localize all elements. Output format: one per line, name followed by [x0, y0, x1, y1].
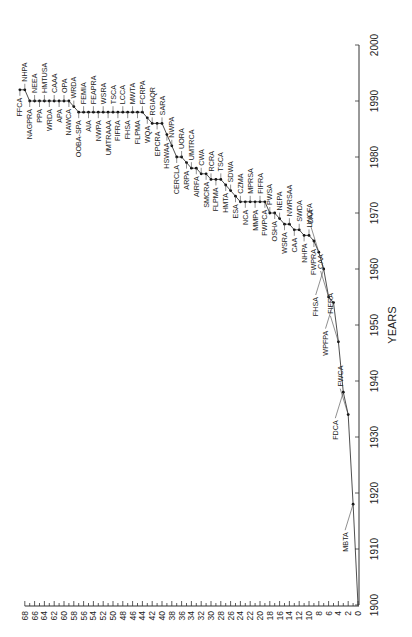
point-label: LWCFA [305, 203, 314, 227]
cumulative-line [20, 90, 358, 605]
count-tick-label: 6 [324, 611, 334, 616]
point-label: CAAA [50, 73, 59, 93]
point-label: OOBA-SPA [74, 120, 83, 157]
year-tick-label: 1960 [369, 257, 380, 280]
point-label: AIRFA [192, 176, 201, 197]
point-label: RGIAQR [148, 87, 157, 115]
point-label: FWPCA [260, 210, 269, 236]
point-label: CZMA [236, 173, 245, 194]
point-label: UMTRCA [187, 129, 196, 160]
point-label: WSRA [280, 232, 289, 254]
point-label: NHPA [300, 243, 309, 263]
count-tick-label: 4 [333, 611, 343, 616]
legislation-cumulative-chart: 1900191019201930194019501960197019801990… [0, 0, 412, 637]
year-tick-label: 1940 [369, 369, 380, 392]
point-labels: MBTAFWCAFDCAFIFRAWPFPACAAFHSACAAFWPRALWC… [15, 62, 353, 551]
count-tick-label: 10 [304, 611, 314, 621]
year-tick-label: 1980 [369, 145, 380, 168]
point-label: HMTA [221, 193, 230, 213]
year-tick-label: 1930 [369, 425, 380, 448]
count-tick-label: 36 [177, 611, 187, 621]
point-label: NEPA [275, 191, 284, 210]
count-tick-label: 18 [265, 611, 275, 621]
point-label: CWA [197, 149, 206, 166]
label-leader-line [345, 504, 353, 530]
point-label: WPFPA [321, 330, 330, 355]
count-tick-label: 66 [30, 611, 40, 621]
point-label: LCCA [118, 85, 127, 104]
year-tick-label: 1900 [369, 593, 380, 616]
x-axis-title: YEARS [386, 306, 398, 343]
point-label: FEAPRA [89, 75, 98, 104]
point-label: AIA [84, 120, 93, 132]
count-tick-label: 60 [59, 611, 69, 621]
point-label: FCRPA [138, 80, 147, 104]
point-label: FWCA [336, 365, 345, 386]
point-label: FHSA [311, 297, 320, 316]
point-label: ESA [231, 204, 240, 219]
count-tick-label: 50 [108, 611, 118, 621]
count-tick-label: 68 [20, 611, 30, 621]
count-tick-label: 26 [226, 611, 236, 621]
count-tick-label: 12 [294, 611, 304, 621]
point-label: CERCLA [172, 165, 181, 194]
count-tick-label: 30 [206, 611, 216, 621]
point-label: FHSA [123, 120, 132, 139]
point-label: SARA [158, 96, 167, 116]
count-tick-label: 24 [235, 611, 245, 621]
year-tick-label: 1910 [369, 537, 380, 560]
count-tick-label: 54 [88, 611, 98, 621]
year-tick-label: 1950 [369, 313, 380, 336]
point-label: FLPMA [133, 120, 142, 144]
point-label: NCA [241, 210, 250, 225]
point-label: SMCRA [202, 182, 211, 208]
count-tick-label: 14 [284, 611, 294, 621]
point-label: NWPA [167, 117, 176, 138]
count-tick-label: 44 [137, 611, 147, 621]
count-tick-label: 34 [186, 611, 196, 621]
point-label: NEEA [30, 73, 39, 93]
point-label: NWPA [94, 120, 103, 141]
count-tick-label: 56 [79, 611, 89, 621]
point-label: ARPA [182, 170, 191, 189]
count-tick-label: 22 [245, 611, 255, 621]
point-label: NAWCA [64, 109, 73, 136]
point-label: FEMIA [79, 82, 88, 104]
point-label: TSCA [216, 152, 225, 171]
point-label: APA [55, 109, 64, 123]
count-tick-label: 52 [98, 611, 108, 621]
point-label: UMTRAAA [104, 120, 113, 155]
point-label: MWTA [128, 83, 137, 105]
cumulative-series [19, 88, 359, 605]
point-label: RCRA [207, 151, 216, 172]
point-label: SWDA [295, 200, 304, 222]
point-label: PWSA [265, 184, 274, 205]
count-tick-label: 38 [167, 611, 177, 621]
point-label: HSWAA [162, 142, 171, 168]
count-tick-label: 48 [118, 611, 128, 621]
point-label: UORA [177, 128, 186, 149]
count-tick-label: 0 [353, 611, 363, 616]
count-tick-label: 28 [216, 611, 226, 621]
year-tick-label: 1990 [369, 89, 380, 112]
point-label: FWPRA [309, 249, 318, 275]
point-label: FFCA [15, 98, 24, 117]
point-label: EPCRA [153, 131, 162, 156]
point-label: WSRA [99, 82, 108, 104]
point-label: WQA [143, 126, 152, 143]
point-label: FIFRA [256, 173, 265, 194]
point-label: FDCA [331, 420, 340, 440]
count-tick-label: 62 [49, 611, 59, 621]
point-label: MBTA [341, 532, 350, 552]
point-label: MPRSA [246, 168, 255, 194]
count-tick-label: 32 [196, 611, 206, 621]
count-tick-label: 20 [255, 611, 265, 621]
point-label: HMTUSA [40, 62, 49, 93]
point-label: MMPA [251, 210, 260, 231]
label-leader-line [330, 316, 338, 342]
point-label: NHPA [20, 62, 29, 82]
count-tick-label: 16 [275, 611, 285, 621]
point-label: WRDA [69, 76, 78, 98]
point-label: OSHA [270, 221, 279, 242]
year-tick-label: 1920 [369, 481, 380, 504]
